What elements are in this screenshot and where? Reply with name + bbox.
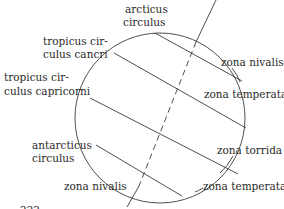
label-tropicus-capricorni-2: culus capricorni xyxy=(4,85,91,97)
label-antarcticus: antarcticus xyxy=(32,139,92,151)
label-tropicus-cancri-2: culus cancri xyxy=(43,48,108,60)
axis-dashed xyxy=(139,42,196,186)
page-number-fragment: 222 xyxy=(20,204,40,209)
label-tropicus-capricorni-1: tropicus cir- xyxy=(4,71,69,83)
label-antarcticus-circulus: circulus xyxy=(32,152,74,164)
axis-bottom-segment xyxy=(127,186,139,207)
label-zona-temperata-north: zona temperata xyxy=(204,88,284,100)
leader-zona-temperata-south xyxy=(195,188,203,192)
axis-top-segment xyxy=(196,0,216,42)
label-zona-nivalis-south: zona nivalis xyxy=(64,180,127,192)
label-zona-torrida: zona torrida xyxy=(217,144,282,156)
label-arcticus: arcticus xyxy=(125,3,168,15)
label-zona-nivalis-north: zona nivalis xyxy=(221,56,284,68)
tropic-capricorn-line xyxy=(90,98,238,174)
label-tropicus-cancri-1: tropicus cir- xyxy=(43,35,108,47)
label-arcticus-circulus: circulus xyxy=(123,16,165,28)
label-zona-temperata-south: zona temperata xyxy=(203,180,284,192)
earth-zones-diagram: arcticus circulus tropicus cir- culus ca… xyxy=(0,0,284,209)
